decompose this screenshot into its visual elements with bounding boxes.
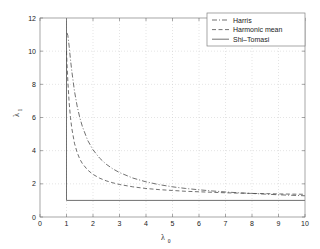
y-tick-label: 2 bbox=[32, 180, 36, 187]
legend-label-harmonic-mean[interactable]: Harmonic mean bbox=[233, 26, 283, 33]
x-axis-title-symbol: λ bbox=[161, 233, 165, 242]
y-axis-title-symbol: λ bbox=[12, 113, 21, 117]
x-tick-label: 0 bbox=[38, 220, 42, 227]
x-tick-label: 7 bbox=[224, 220, 228, 227]
x-tick-label: 5 bbox=[171, 220, 175, 227]
figure-container: 012345678910 024681012 λ 0 λ 1 HarrisHar… bbox=[0, 0, 320, 249]
y-tick-label: 4 bbox=[32, 147, 36, 154]
legend[interactable]: HarrisHarmonic meanShi–Tomasi bbox=[207, 13, 305, 46]
x-axis-title-subscript: 0 bbox=[168, 238, 171, 244]
legend-label-harris[interactable]: Harris bbox=[233, 17, 252, 24]
x-tick-label: 4 bbox=[144, 220, 148, 227]
legend-label-shi-tomasi[interactable]: Shi–Tomasi bbox=[233, 36, 270, 43]
x-tick-label: 9 bbox=[277, 220, 281, 227]
y-axis-title-subscript: 1 bbox=[17, 108, 23, 111]
x-tick-label: 1 bbox=[65, 220, 69, 227]
y-tick-label: 12 bbox=[28, 15, 36, 22]
x-tick-label: 2 bbox=[91, 220, 95, 227]
chart-canvas: 012345678910 024681012 λ 0 λ 1 HarrisHar… bbox=[0, 0, 320, 249]
x-axis-title: λ 0 bbox=[161, 233, 171, 244]
y-tick-label: 8 bbox=[32, 81, 36, 88]
y-tick-label: 0 bbox=[32, 214, 36, 221]
y-axis-title: λ 1 bbox=[12, 108, 23, 117]
x-tick-label: 10 bbox=[301, 220, 309, 227]
y-tick-label: 10 bbox=[28, 48, 36, 55]
x-tick-label: 3 bbox=[118, 220, 122, 227]
x-tick-label: 6 bbox=[197, 220, 201, 227]
y-tick-label: 6 bbox=[32, 114, 36, 121]
x-tick-label: 8 bbox=[250, 220, 254, 227]
